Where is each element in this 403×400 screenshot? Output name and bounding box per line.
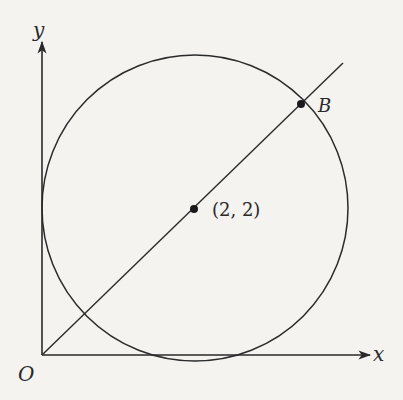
point-b [297,100,305,108]
y-axis-label: y [32,18,45,42]
point-b-label: B [317,95,331,116]
center-label: (2, 2) [212,199,260,220]
x-axis-label: x [373,342,384,366]
center-point [190,205,198,213]
origin-label: O [18,362,34,386]
diagram-canvas: y x O (2, 2) B [0,0,403,400]
